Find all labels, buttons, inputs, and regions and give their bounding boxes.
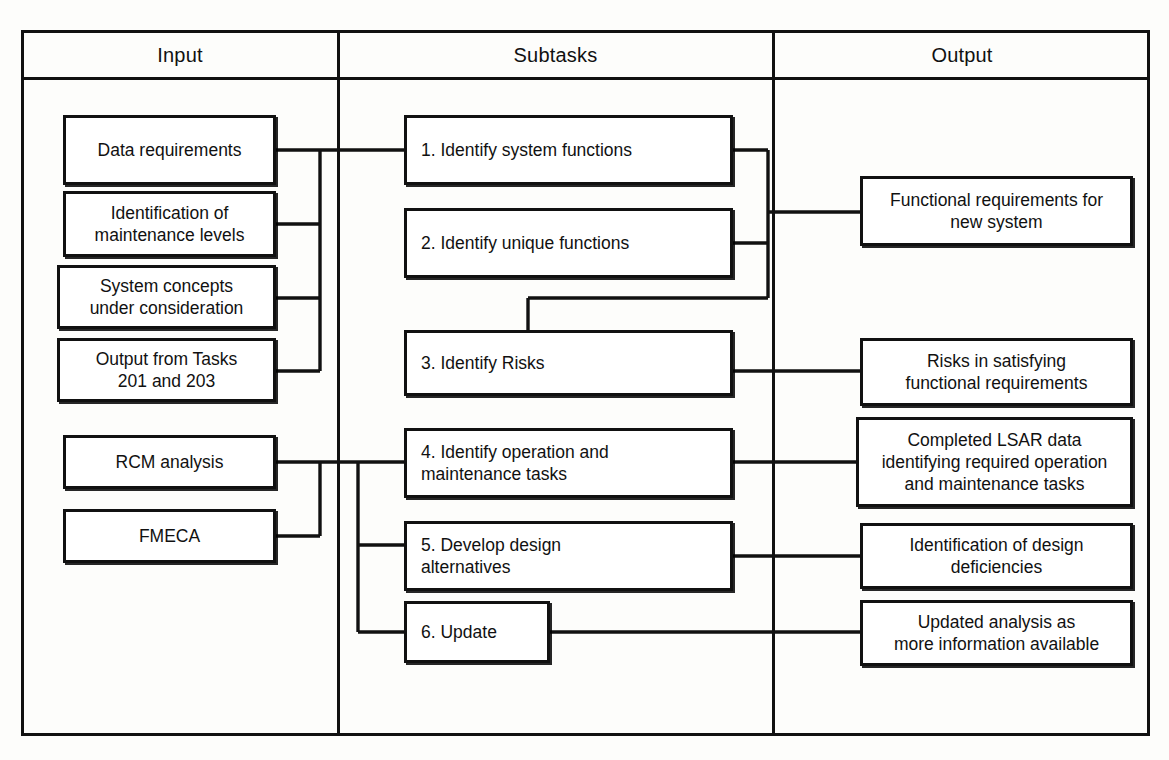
node-label: Data requirements bbox=[98, 139, 242, 161]
column-divider-subtasks-output bbox=[772, 30, 775, 736]
node-label: Completed LSAR data identifying required… bbox=[882, 429, 1108, 495]
node-risks-satisfying[interactable]: Risks in satisfying functional requireme… bbox=[860, 338, 1133, 406]
node-design-deficiencies[interactable]: Identification of design deficiencies bbox=[860, 523, 1133, 589]
column-header-subtasks: Subtasks bbox=[340, 36, 771, 74]
column-header-input: Input bbox=[24, 36, 336, 74]
node-label: Updated analysis as more information ava… bbox=[894, 611, 1099, 655]
node-subtask-1[interactable]: 1. Identify system functions bbox=[404, 115, 733, 185]
node-updated-analysis[interactable]: Updated analysis as more information ava… bbox=[860, 600, 1133, 666]
node-subtask-6[interactable]: 6. Update bbox=[404, 601, 550, 663]
node-label: Identification of maintenance levels bbox=[95, 202, 245, 246]
node-functional-requirements[interactable]: Functional requirements for new system bbox=[860, 176, 1133, 246]
node-label: 1. Identify system functions bbox=[421, 139, 632, 161]
node-subtask-4[interactable]: 4. Identify operation and maintenance ta… bbox=[404, 428, 733, 498]
header-separator bbox=[21, 77, 1150, 80]
node-subtask-2[interactable]: 2. Identify unique functions bbox=[404, 208, 733, 278]
node-label: RCM analysis bbox=[116, 451, 224, 473]
flowchart-page: Input Subtasks Output Data requirements … bbox=[0, 0, 1169, 760]
column-header-output: Output bbox=[775, 36, 1149, 74]
node-output-from-tasks[interactable]: Output from Tasks 201 and 203 bbox=[57, 338, 276, 402]
node-subtask-5[interactable]: 5. Develop design alternatives bbox=[404, 521, 733, 591]
node-label: 5. Develop design alternatives bbox=[421, 534, 561, 578]
node-data-requirements[interactable]: Data requirements bbox=[63, 115, 276, 185]
node-system-concepts[interactable]: System concepts under consideration bbox=[57, 265, 276, 329]
node-completed-lsar[interactable]: Completed LSAR data identifying required… bbox=[856, 417, 1133, 507]
node-label: Functional requirements for new system bbox=[890, 189, 1103, 233]
node-label: Output from Tasks 201 and 203 bbox=[96, 348, 238, 392]
node-label: 2. Identify unique functions bbox=[421, 232, 629, 254]
node-fmeca[interactable]: FMECA bbox=[63, 509, 276, 563]
node-label: 4. Identify operation and maintenance ta… bbox=[421, 441, 609, 485]
node-rcm-analysis[interactable]: RCM analysis bbox=[63, 435, 276, 489]
node-label: 6. Update bbox=[421, 621, 497, 643]
node-subtask-3[interactable]: 3. Identify Risks bbox=[404, 330, 733, 396]
node-maintenance-levels[interactable]: Identification of maintenance levels bbox=[63, 191, 276, 257]
node-label: Risks in satisfying functional requireme… bbox=[906, 350, 1088, 394]
column-divider-input-subtasks bbox=[337, 30, 340, 736]
node-label: Identification of design deficiencies bbox=[909, 534, 1083, 578]
node-label: 3. Identify Risks bbox=[421, 352, 545, 374]
node-label: FMECA bbox=[139, 525, 200, 547]
node-label: System concepts under consideration bbox=[90, 275, 244, 319]
